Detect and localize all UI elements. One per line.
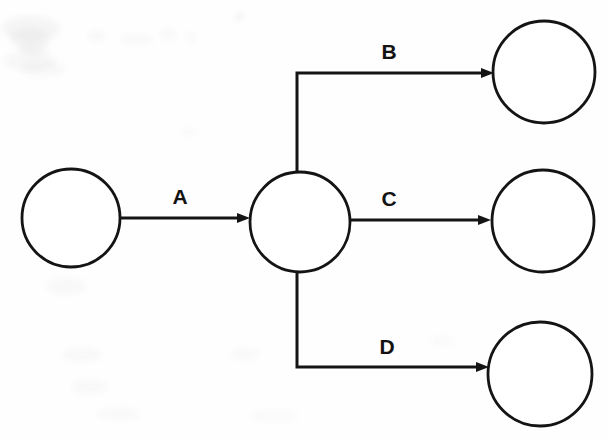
target-node-top: [493, 21, 595, 123]
nodes-group: [22, 21, 595, 426]
hub-node: [250, 172, 350, 272]
target-node-bottom: [488, 322, 592, 426]
edge-label-b: B: [381, 40, 396, 63]
arrowhead-a: [237, 213, 250, 223]
arrowhead-c: [478, 215, 491, 225]
edge-b: [297, 73, 487, 172]
edge-label-d: D: [379, 335, 394, 358]
source-node: [22, 169, 120, 267]
edge-label-c: C: [381, 187, 396, 210]
edge-label-a: A: [172, 185, 187, 208]
target-node-middle: [492, 170, 594, 272]
diagram-page: ABCD: [0, 0, 608, 441]
state-transition-diagram: ABCD: [0, 0, 608, 441]
